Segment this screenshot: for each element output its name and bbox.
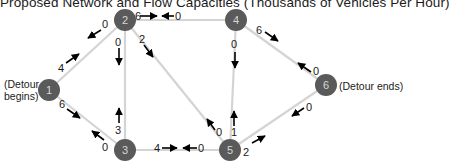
detour-ends-label: (Detour ends)	[339, 80, 403, 92]
flow-label-2-5-bwd: 0	[216, 126, 222, 138]
node-3-label: 3	[122, 144, 128, 156]
node-2: 2	[114, 9, 136, 31]
flow-label-1-3-bwd: 0	[102, 141, 108, 153]
node-4-label: 4	[233, 14, 239, 26]
detour-begins-label: (Detour begins)	[4, 78, 39, 102]
flow-label-4-5-fwd: 0	[231, 38, 237, 50]
node-3: 3	[114, 139, 136, 161]
edge-1-2	[49, 20, 125, 90]
node-4: 4	[225, 9, 247, 31]
node-5: 5	[219, 139, 241, 161]
flow-label-5-6-fwd: 2	[243, 146, 249, 158]
flow-label-4-6-bwd: 0	[313, 65, 319, 77]
arrow-icon	[66, 54, 79, 63]
arrow-icon	[88, 30, 101, 38]
flow-label-2-4-bwd: 0	[175, 10, 181, 22]
flow-arrows	[66, 16, 311, 148]
node-1: 1	[38, 79, 60, 101]
nodes: 1 2 3 4 5 6	[38, 9, 337, 161]
flow-label-4-5-bwd: 1	[231, 126, 237, 138]
flow-label-3-5-bwd: 0	[198, 142, 204, 154]
arrow-icon	[252, 136, 265, 143]
flow-label-3-5-fwd: 4	[154, 142, 160, 154]
arrow-icon	[265, 32, 278, 41]
flow-label-2-5-fwd: 2	[139, 33, 145, 45]
flow-label-4-6-fwd: 6	[256, 24, 262, 36]
flow-label-1-3-fwd: 6	[59, 98, 65, 110]
arrow-icon	[144, 45, 153, 57]
arrow-icon	[292, 108, 304, 116]
node-6: 6	[315, 74, 337, 96]
edges	[49, 20, 326, 150]
flow-label-1-2-bwd: 0	[102, 18, 108, 30]
detour-begins-line1: (Detour	[4, 78, 39, 90]
detour-begins-line2: begins)	[4, 90, 39, 102]
flow-label-1-2-fwd: 4	[58, 62, 64, 74]
edge-5-6	[230, 85, 326, 150]
node-1-label: 1	[46, 84, 52, 96]
node-5-label: 5	[227, 144, 233, 156]
flow-label-5-6-bwd: 0	[306, 101, 312, 113]
flow-label-2-3-bwd: 3	[115, 124, 121, 136]
node-6-label: 6	[323, 79, 329, 91]
flow-label-2-3-fwd: 0	[115, 36, 121, 48]
node-2-label: 2	[122, 14, 128, 26]
